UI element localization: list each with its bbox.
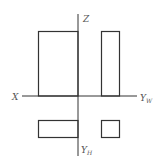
yh-axis-label: YH (81, 145, 93, 156)
side-view-rect (102, 32, 120, 97)
yw-axis-label: YW (140, 93, 153, 104)
front-view-rect (39, 32, 79, 97)
orthographic-projection-diagram: Z X YW YH (0, 0, 160, 164)
top-view-rect (39, 121, 79, 138)
yw-axis-subscript: W (146, 97, 153, 104)
yh-axis-subscript: H (86, 149, 93, 156)
x-axis-label: X (11, 92, 19, 102)
z-axis-label: Z (82, 14, 90, 24)
auxiliary-square-rect (102, 121, 120, 138)
